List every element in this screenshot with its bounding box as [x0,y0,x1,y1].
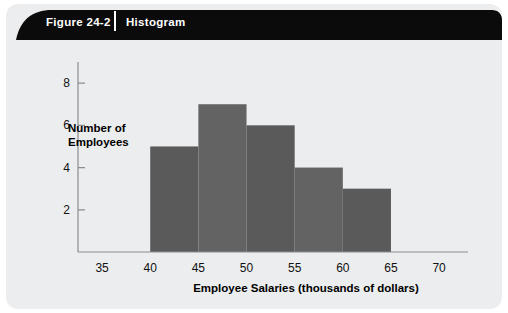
histogram-plot: 2468 3540455055606570 Number of Employee… [6,40,502,309]
x-axis-tick-label: 65 [384,261,398,275]
x-axis-tick-label: 55 [288,261,302,275]
x-axis-title: Employee Salaries (thousands of dollars) [193,282,419,294]
figure-title-label: Histogram [126,17,186,29]
histogram-bar [247,125,295,252]
histogram-bar [150,146,198,252]
x-axis-tick-label: 60 [336,261,350,275]
y-axis-title-line-1: Number of [68,122,126,134]
x-axis-tick-label: 35 [95,261,109,275]
histogram-bar [198,104,246,252]
x-axis-tick-label: 50 [240,261,254,275]
x-axis-ticks: 3540455055606570 [95,261,446,275]
figure-header-banner: Figure 24-2 Histogram [6,4,502,40]
y-axis-tick-label: 8 [63,76,70,90]
y-axis-title-line-2: Employees [68,136,129,148]
histogram-bars [150,104,391,252]
y-axis-title: Number of Employees [68,122,129,148]
banner-divider [114,11,116,31]
x-axis-tick-label: 45 [192,261,206,275]
histogram-bar [343,189,391,252]
y-axis-tick-label: 2 [63,203,70,217]
figure-card: Figure 24-2 Histogram 2468 3540455055606… [6,4,502,309]
x-axis-tick-label: 40 [144,261,158,275]
histogram-bar [295,168,343,252]
y-axis-tick-label: 4 [63,161,70,175]
figure-number-label: Figure 24-2 [46,17,111,29]
x-axis-tick-label: 70 [432,261,446,275]
histogram-chart: 2468 3540455055606570 Number of Employee… [6,40,502,309]
